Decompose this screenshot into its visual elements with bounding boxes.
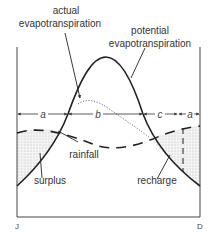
potential-et-label-1: potential: [131, 25, 169, 36]
axis-start-label: J: [15, 222, 19, 231]
potential-et-label-2: evapotranspiration: [109, 38, 191, 49]
segment-a2: a: [187, 109, 193, 120]
actual-et-label-1: actual: [53, 5, 80, 16]
rainfall-leader: [58, 131, 78, 142]
recharge-label: recharge: [137, 175, 177, 186]
axis-end-label: D: [197, 222, 203, 231]
segment-b: b: [95, 109, 101, 120]
actual-et-curve: [78, 101, 150, 138]
surplus-label: surplus: [34, 175, 66, 186]
actual-et-label-2: evapotranspiration: [19, 18, 101, 29]
actual-et-leader: [65, 33, 80, 98]
potential-et-leader: [131, 48, 145, 78]
water-balance-diagram: a b c a actual evapotranspiration potent…: [0, 0, 211, 236]
segment-a1: a: [40, 109, 46, 120]
rainfall-label: rainfall: [69, 149, 98, 160]
potential-et-curve: [17, 57, 200, 186]
segment-c: c: [158, 109, 163, 120]
